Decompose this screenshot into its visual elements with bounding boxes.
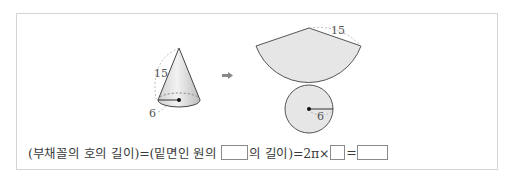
circle-radius-label: 6 — [317, 110, 324, 123]
sector-net: 15 — [256, 24, 361, 83]
answer-blank-1[interactable] — [221, 145, 248, 160]
right-arrow-icon — [222, 72, 233, 79]
cone-radius-label: 6 — [149, 107, 156, 120]
base-circle-net: 6 — [285, 85, 333, 133]
formula-text-1: (부채꼴의 호의 길이)=(밑면인 원의 — [28, 143, 217, 162]
formula-line: (부채꼴의 호의 길이)=(밑면인 원의 의 길이)=2π× = — [28, 143, 389, 161]
answer-blank-3[interactable] — [357, 145, 388, 160]
formula-text-3: = — [346, 145, 356, 160]
answer-blank-2[interactable] — [330, 145, 345, 160]
cone: 15 6 — [149, 48, 200, 120]
formula-text-2: 의 길이)=2π× — [249, 143, 329, 162]
cone-slant-label: 15 — [154, 67, 168, 80]
sector-radius-label: 15 — [331, 24, 345, 37]
